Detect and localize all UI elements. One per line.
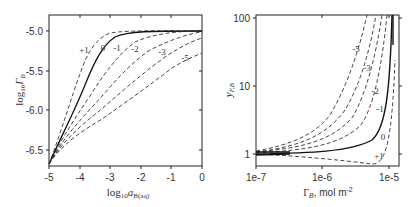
left-x-axis-label: log10aB(aq) — [107, 186, 150, 200]
x-tick-label: -3 — [106, 172, 115, 183]
left-y-axis-label: log10ΓB — [13, 73, 27, 105]
curve-label: -3 — [158, 47, 166, 57]
right-y-axis-label: yF,B — [222, 82, 236, 98]
curve-minus2 — [256, 15, 382, 152]
curve-label: -3 — [363, 63, 371, 73]
curve-label: 0 — [381, 132, 386, 142]
left-plot: -5.0 -5.5 -6.0 -6.5 -5 -4 -3 -2 -1 0 log… — [13, 15, 205, 200]
curve-label: +1 — [79, 45, 89, 55]
curve-0 — [256, 15, 392, 154]
curve-label: 0 — [101, 43, 106, 53]
y-tick-label: -5.0 — [26, 26, 44, 37]
y-tick-label: -6.0 — [26, 105, 44, 116]
x-tick-label: -1 — [167, 172, 176, 183]
x-tick-label: 1e-7 — [246, 172, 266, 183]
curve-label: -2 — [131, 44, 139, 54]
x-tick-label: -4 — [76, 172, 85, 183]
y-tick-label: 1 — [244, 149, 250, 160]
curve-minus5 — [49, 53, 202, 164]
right-x-axis-label: ΓB, mol m-2 — [303, 186, 353, 199]
curve-minus3 — [49, 38, 202, 164]
curve-label: -1 — [113, 43, 121, 53]
curve-minus5 — [256, 15, 367, 151]
x-tick-label: -5 — [45, 172, 54, 183]
y-tick-label: 10 — [239, 81, 251, 92]
curve-label: -1 — [376, 104, 384, 114]
x-tick-label: -2 — [137, 172, 146, 183]
curve-minus2 — [49, 32, 202, 164]
figure: -5.0 -5.5 -6.0 -6.5 -5 -4 -3 -2 -1 0 log… — [0, 0, 420, 207]
y-tick-label: -5.5 — [26, 66, 44, 77]
curve-label: -5 — [181, 53, 189, 63]
curve-plus1 — [49, 31, 202, 164]
curve-label: -5 — [352, 44, 360, 54]
curve-minus1 — [49, 31, 202, 164]
y-tick-label: 100 — [233, 13, 250, 24]
curve-0 — [49, 31, 202, 164]
curve-minus3 — [256, 15, 376, 152]
right-plot: 100 10 1 1e-7 1e-6 1e-5 ΓB, mol m-2 yF,B… — [222, 13, 402, 200]
x-tick-label: 1e-6 — [312, 172, 332, 183]
curve-label: -2 — [371, 86, 379, 96]
x-tick-label: 0 — [199, 172, 205, 183]
y-tick-label: -6.5 — [26, 145, 44, 156]
curve-label: +1 — [374, 151, 384, 161]
x-tick-label: 1e-5 — [379, 172, 399, 183]
